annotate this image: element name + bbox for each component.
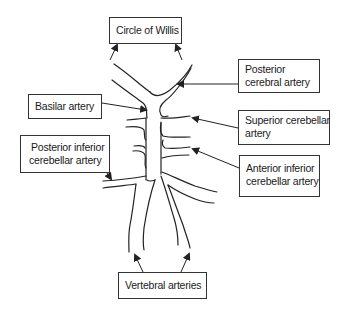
sca-left-bottom — [126, 127, 146, 140]
label-posterior-cerebral-artery: Posterior cerebral artery — [238, 59, 320, 93]
pca-left-outer — [114, 64, 150, 92]
label-text-line2: cerebral artery — [245, 76, 313, 89]
arrow-basilar — [102, 103, 146, 110]
sca-left-top — [127, 118, 146, 120]
pca-right-outer — [150, 65, 192, 96]
label-text-line1: Posterior — [245, 63, 313, 76]
label-text: Circle of Willis — [116, 24, 175, 37]
label-text-line2: artery — [245, 127, 323, 140]
aica-right-top — [162, 140, 190, 148]
label-text-line1: Superior cerebellar — [245, 114, 323, 127]
label-text: Basilar artery — [35, 100, 95, 113]
arrow-anterior-inferior-cerebellar — [193, 149, 239, 168]
artery-vessels — [103, 64, 217, 252]
arrow-circle-of-willis-right — [176, 45, 182, 60]
label-text: Vertebral arteries — [125, 279, 200, 292]
label-vertebral-arteries: Vertebral arteries — [118, 272, 207, 299]
right-lower-branch-top — [162, 172, 217, 192]
label-text-line1: Anterior inferior — [246, 162, 313, 175]
right-lower-branch-bottom — [168, 185, 214, 203]
arrow-circle-of-willis-left — [110, 45, 117, 60]
aica-left-bottom — [133, 151, 146, 168]
arrow-vertebral-left — [135, 255, 143, 272]
label-circle-of-willis: Circle of Willis — [109, 17, 182, 44]
pca-right-inner — [160, 68, 191, 117]
pica-bottom — [103, 184, 136, 188]
label-posterior-inferior-cerebellar-artery: Posterior inferior cerebellar artery — [20, 135, 110, 173]
aica-left-top — [134, 146, 145, 148]
vertebral-left-inner — [143, 180, 155, 250]
arrow-superior-cerebellar — [193, 118, 238, 128]
label-text-line2: cerebellar artery — [246, 175, 313, 188]
vertebral-right-outer — [168, 185, 190, 248]
label-anterior-inferior-cerebellar-artery: Anterior inferior cerebellar artery — [239, 155, 320, 197]
label-superior-cerebellar-artery: Superior cerebellar artery — [238, 110, 330, 145]
label-text-line2: cerebellar artery — [29, 154, 103, 167]
vertebral-left-outer — [129, 184, 136, 252]
label-basilar-artery: Basilar artery — [28, 94, 102, 119]
sca-right-bottom — [160, 123, 190, 137]
arrow-vertebral-right — [181, 254, 189, 272]
pointer-arrows — [101, 45, 239, 272]
label-text-line1: Posterior inferior — [29, 141, 103, 154]
aica-right-bottom — [162, 155, 189, 158]
